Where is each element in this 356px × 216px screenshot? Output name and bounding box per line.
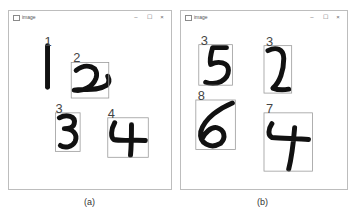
caption-b: (b)	[257, 197, 268, 207]
digit-stroke-4	[112, 123, 146, 156]
detection-label: 7	[266, 101, 273, 116]
digit-stroke-2b	[268, 49, 289, 90]
detection-label: 3	[55, 101, 62, 116]
image-canvas: 3 3 8 7	[181, 11, 347, 189]
caption-a: (a)	[84, 197, 95, 207]
digit-stroke-3	[59, 116, 76, 147]
digit-stroke-5	[206, 48, 229, 84]
digit-stroke-6	[201, 103, 233, 146]
image-canvas: 1 2 3 4	[9, 11, 171, 189]
digit-stroke-4b	[269, 124, 309, 169]
detection-label: 3	[201, 33, 208, 48]
digit-stroke-2	[74, 66, 109, 90]
image-window-a: image – ☐ × 1 2 3 4	[8, 10, 172, 190]
detection-label: 3	[266, 34, 273, 49]
detection-label: 1	[45, 34, 52, 49]
detection-label: 4	[108, 106, 115, 121]
detection-label: 2	[73, 50, 80, 65]
image-window-b: image – ☐ × 3 3 8 7	[180, 10, 348, 190]
detection-label: 8	[198, 88, 205, 103]
